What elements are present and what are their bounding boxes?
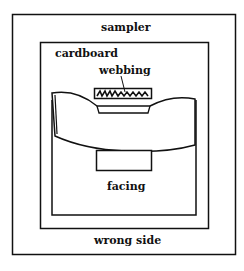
diagram-canvas bbox=[0, 0, 244, 271]
sampler-label: sampler bbox=[101, 22, 151, 33]
webbing-label: webbing bbox=[99, 65, 151, 76]
facing-label: facing bbox=[107, 181, 145, 192]
cardboard-label: cardboard bbox=[55, 48, 118, 59]
wrong-side-label: wrong side bbox=[94, 235, 161, 246]
facing-tab bbox=[97, 151, 152, 171]
cushion-shape bbox=[52, 92, 195, 151]
